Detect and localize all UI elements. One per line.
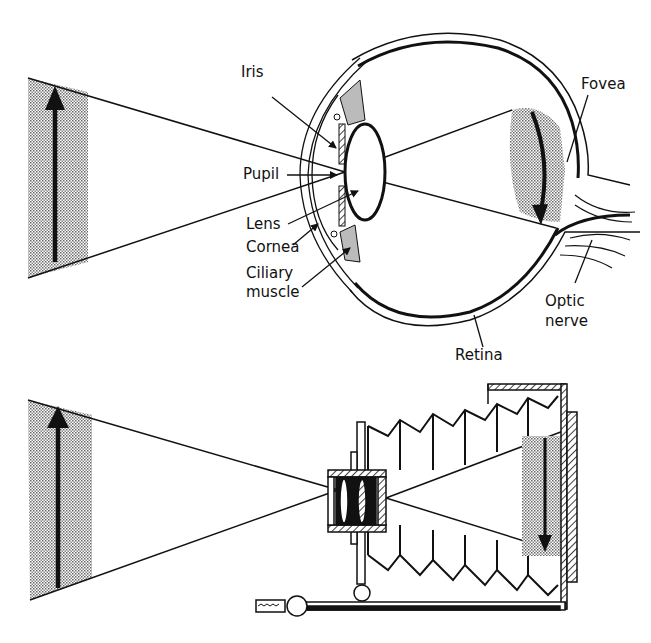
- label-cornea: Cornea: [246, 239, 299, 256]
- label-fovea: Fovea: [581, 76, 626, 93]
- camera-light-rays: [28, 400, 566, 600]
- label-lens: Lens: [246, 216, 281, 233]
- label-pupil: Pupil: [243, 166, 279, 183]
- eye-lens: [345, 124, 385, 220]
- label-ciliary-muscle-2: muscle: [246, 284, 300, 301]
- label-retina: Retina: [455, 347, 503, 364]
- eye-object: [28, 78, 88, 278]
- eye-section: [28, 33, 640, 325]
- label-ciliary-muscle-1: Ciliary: [246, 265, 293, 282]
- camera-rail: [256, 596, 565, 616]
- label-optic-nerve-2: nerve: [545, 313, 588, 330]
- camera-section: [28, 384, 577, 616]
- label-optic-nerve-1: Optic: [545, 293, 585, 310]
- camera-object: [28, 400, 92, 600]
- camera-lens: [328, 470, 386, 532]
- label-iris: Iris: [241, 64, 264, 81]
